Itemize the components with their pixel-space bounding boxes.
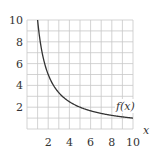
x-tick-label: 8 (108, 136, 115, 149)
function-plot: 246810 246810 f(x) x (0, 0, 156, 154)
x-tick-label: 2 (45, 136, 52, 149)
y-tick-label: 2 (16, 101, 23, 114)
y-tick-label: 10 (9, 14, 23, 27)
y-tick-label: 8 (16, 36, 23, 49)
function-label: f(x) (115, 100, 135, 113)
x-tick-label: 6 (87, 136, 94, 149)
x-axis-ticks: 246810 (45, 136, 140, 149)
x-axis-label: x (143, 124, 150, 137)
x-tick-label: 10 (126, 136, 140, 149)
y-tick-label: 6 (16, 58, 23, 71)
y-tick-label: 4 (16, 79, 23, 92)
x-tick-label: 4 (66, 136, 73, 149)
y-axis-ticks: 246810 (9, 14, 23, 114)
